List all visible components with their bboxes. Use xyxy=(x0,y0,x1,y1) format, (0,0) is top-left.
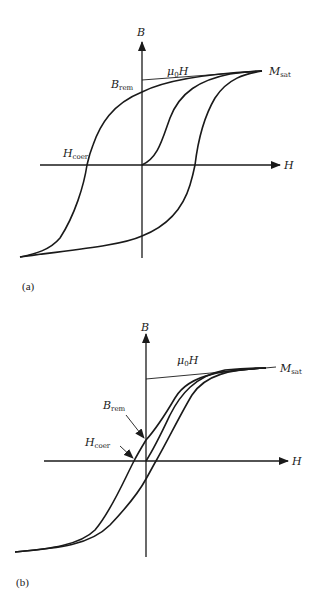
brem-pointer-b xyxy=(126,415,144,438)
msat-label-b: Msat xyxy=(279,362,302,376)
panel-b: B H μ0H Msat Brem Hcoer (b) xyxy=(15,321,302,589)
panel-label-a: (a) xyxy=(22,280,35,293)
h-axis-label-a: H xyxy=(283,159,294,172)
panel-a: B H μ0H Msat Brem Hcoer (a) xyxy=(20,26,294,293)
hcoer-label-a: Hcoer xyxy=(62,147,89,161)
b-axis-label-a: B xyxy=(136,26,145,39)
mu0h-label-a: μ0H xyxy=(167,65,189,79)
lower-branch-b xyxy=(15,368,266,552)
lower-branch-a xyxy=(20,71,262,257)
h-axis-label-b: H xyxy=(291,455,302,468)
upper-branch-b xyxy=(15,368,266,552)
upper-branch-a xyxy=(20,71,262,257)
mu0h-label-b: μ0H xyxy=(177,354,199,368)
brem-label-a: Brem xyxy=(110,78,134,92)
hcoer-pointer-b xyxy=(120,446,133,458)
msat-label-a: Msat xyxy=(268,65,291,79)
panel-label-b: (b) xyxy=(16,576,29,589)
hysteresis-figure: B H μ0H Msat Brem Hcoer (a) B xyxy=(0,0,317,606)
hcoer-label-b: Hcoer xyxy=(84,436,111,450)
b-axis-label-b: B xyxy=(140,321,149,334)
brem-label-b: Brem xyxy=(102,399,126,413)
